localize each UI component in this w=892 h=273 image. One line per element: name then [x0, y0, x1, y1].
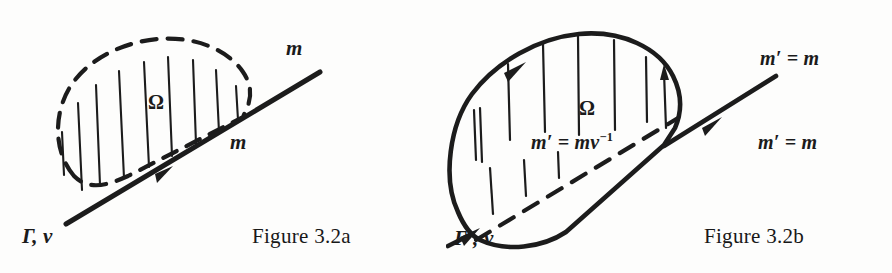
gamma-line: [66, 72, 320, 224]
figure-3-2b-panel: Ω m′ = mv−1 m′ = m m′ = m Γ′, v Figure 3…: [446, 0, 892, 273]
label-m-prime-mv-base: m′ = mv: [531, 131, 599, 153]
figure-3-2b-drawing: [446, 0, 892, 273]
figure-page: m m Ω Γ, v Figure 3.2a: [0, 0, 892, 273]
label-m-prime-top: m′ = m: [760, 48, 819, 68]
hatch-lines: [62, 57, 238, 190]
figure-3-2a-drawing: [0, 0, 446, 273]
label-gamma-boundary: Γ, v: [22, 226, 53, 247]
label-omega-region: Ω: [148, 92, 164, 112]
figure-caption-a: Figure 3.2a: [252, 224, 351, 249]
label-m-prime-mv-inverse: m′ = mv−1: [531, 132, 613, 152]
hatch-lines-lower: [490, 152, 559, 214]
label-gamma-prime-boundary: Γ′, v: [454, 228, 493, 249]
label-m-bottom: m: [230, 132, 247, 153]
label-omega-region: Ω: [579, 98, 595, 118]
figure-3-2a-panel: m m Ω Γ, v Figure 3.2a: [0, 0, 446, 273]
label-m-top: m: [286, 38, 303, 59]
figure-caption-b: Figure 3.2b: [704, 224, 804, 249]
hatch-arrow-right: [660, 64, 669, 128]
label-m-prime-mv-exponent: −1: [599, 130, 613, 144]
label-m-prime-bottom: m′ = m: [758, 132, 817, 152]
